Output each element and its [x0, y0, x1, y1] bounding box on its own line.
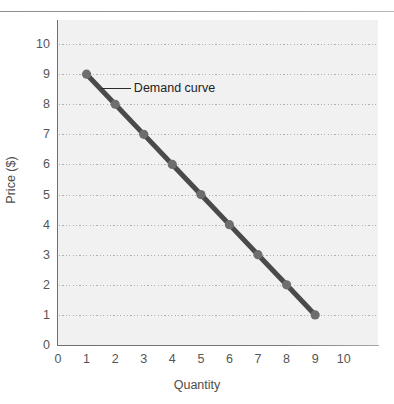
- y-tick-label-9: 9: [30, 68, 50, 81]
- gridline-y-7: [59, 134, 377, 135]
- gridline-y-5: [59, 195, 377, 196]
- y-tick-label-7: 7: [30, 128, 50, 141]
- plot-area: [58, 20, 378, 345]
- x-tick-label-4: 4: [162, 353, 182, 366]
- x-tick-label-2: 2: [105, 353, 125, 366]
- gridline-y-1: [59, 315, 377, 316]
- gridline-y-9: [59, 74, 377, 75]
- x-tick-label-5: 5: [191, 353, 211, 366]
- y-axis-title: Price ($): [4, 150, 18, 210]
- x-tick-label-9: 9: [305, 353, 325, 366]
- y-tick-label-6: 6: [30, 158, 50, 171]
- annotation-demand-curve: Demand curve: [134, 81, 215, 95]
- gridline-y-3: [59, 255, 377, 256]
- gridline-y-6: [59, 164, 377, 165]
- y-tick-label-10: 10: [30, 38, 50, 51]
- demand-curve-figure: 012345678910 012345678910 Demand curve Q…: [0, 0, 394, 404]
- y-axis-line: [57, 20, 58, 346]
- y-tick-label-5: 5: [30, 189, 50, 202]
- x-axis-line: [57, 345, 379, 346]
- x-tick-label-3: 3: [134, 353, 154, 366]
- x-tick-label-8: 8: [277, 353, 297, 366]
- x-tick-label-0: 0: [48, 353, 68, 366]
- gridline-y-2: [59, 285, 377, 286]
- annotation-leader-line: [101, 88, 131, 90]
- x-tick-label-1: 1: [77, 353, 97, 366]
- gridline-y-8: [59, 104, 377, 105]
- header-rule: [0, 11, 394, 12]
- y-tick-label-3: 3: [30, 249, 50, 262]
- gridline-y-10: [59, 44, 377, 45]
- y-tick-label-8: 8: [30, 98, 50, 111]
- y-tick-label-1: 1: [30, 309, 50, 322]
- x-tick-label-7: 7: [248, 353, 268, 366]
- y-tick-label-2: 2: [30, 279, 50, 292]
- x-tick-label-10: 10: [334, 353, 354, 366]
- x-tick-label-6: 6: [219, 353, 239, 366]
- gridline-y-4: [59, 225, 377, 226]
- y-tick-label-4: 4: [30, 219, 50, 232]
- y-tick-label-0: 0: [30, 339, 50, 352]
- x-axis-title: Quantity: [0, 378, 394, 392]
